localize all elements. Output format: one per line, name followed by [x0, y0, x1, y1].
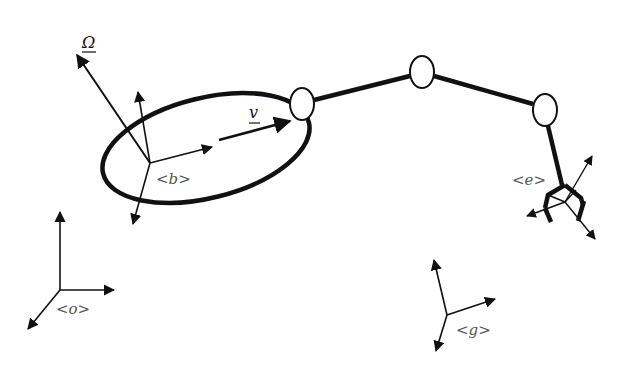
omega-arrow — [77, 55, 150, 163]
body-axis-down — [133, 163, 150, 224]
arm-links — [314, 76, 562, 185]
body-frame — [77, 55, 290, 224]
joints — [290, 56, 557, 126]
velocity-label: v — [249, 103, 258, 122]
velocity-arrow — [219, 121, 290, 140]
end-effector-frame — [527, 156, 595, 239]
body-axis-x — [150, 147, 212, 163]
gripper — [545, 185, 584, 222]
robot-arm-diagram: Ω v <b> <e> <o> <g> — [0, 0, 623, 375]
joint-2 — [410, 56, 434, 88]
joint-1 — [290, 88, 314, 120]
goal-frame-label: <g> — [456, 321, 491, 339]
body-frame-label: <b> — [156, 170, 191, 188]
omega-label: Ω — [81, 33, 95, 52]
joint-3 — [533, 94, 557, 126]
end-effector-frame-label: <e> — [512, 171, 546, 189]
diagram-canvas: Ω v <b> <e> <o> <g> — [0, 0, 623, 375]
origin-frame-label: <o> — [56, 300, 90, 318]
